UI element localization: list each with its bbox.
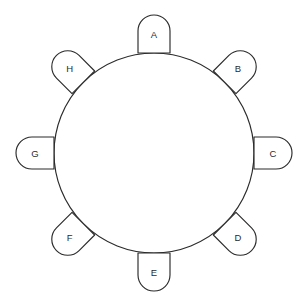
marker-label-a: A (151, 29, 158, 40)
diagram-canvas: ABCDEFGH (0, 0, 307, 306)
marker-label-h: H (66, 63, 73, 74)
marker-label-d: D (235, 232, 242, 243)
marker-group: ABCDEFGH (16, 15, 292, 291)
marker-label-c: C (269, 148, 276, 159)
marker-label-f: F (67, 232, 73, 243)
diagram-svg: ABCDEFGH (0, 0, 307, 306)
marker-label-e: E (151, 267, 158, 278)
marker-label-b: B (235, 63, 242, 74)
marker-label-g: G (31, 148, 39, 159)
main-circle (54, 53, 254, 253)
